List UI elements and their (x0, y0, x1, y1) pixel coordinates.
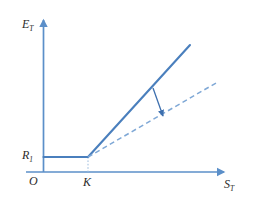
y-intercept-label-subscript: 1 (29, 155, 33, 164)
y-intercept-label: R1 (22, 149, 33, 164)
threshold-label: K (83, 176, 91, 188)
y-axis-label-subscript: T (29, 24, 33, 33)
dashed-lower-slope (88, 83, 216, 157)
x-axis-label: ST (224, 178, 234, 193)
plot-canvas (0, 0, 258, 208)
x-axis-label-subscript: T (230, 184, 234, 193)
origin-label: O (29, 175, 38, 187)
solid-bilinear-curve (44, 45, 191, 157)
y-axis-label: ET (22, 18, 34, 33)
figure-container: ET ST R1 O K (0, 0, 258, 208)
shift-arrow-icon (153, 88, 163, 116)
